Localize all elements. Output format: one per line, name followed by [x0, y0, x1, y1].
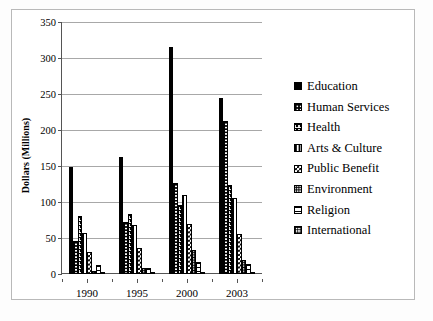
bar [151, 272, 156, 274]
legend-label: Public Benefit [307, 162, 379, 175]
bar-group [62, 22, 112, 274]
x-tick-mark [137, 279, 138, 283]
bar [101, 272, 106, 274]
plot-area: 050100150200250300350 [62, 22, 262, 274]
legend-item[interactable]: Religion [294, 200, 424, 221]
y-tick-label: 250 [40, 89, 56, 100]
bar-group [112, 22, 162, 274]
legend-label: Environment [307, 183, 372, 196]
x-tick-mark [187, 279, 188, 283]
y-tick-label: 100 [40, 197, 56, 208]
x-tick-label: 2000 [176, 287, 198, 299]
legend-label: Arts & Culture [307, 142, 382, 155]
legend-label: Health [307, 121, 340, 134]
x-tick-boundary [62, 279, 63, 282]
bar [201, 272, 206, 274]
legend-label: Religion [307, 204, 350, 217]
legend-item[interactable]: Human Services [294, 97, 424, 118]
legend-item[interactable]: Public Benefit [294, 158, 424, 179]
legend-item[interactable]: Health [294, 117, 424, 138]
x-tick-boundary [212, 279, 213, 282]
y-tick-label: 50 [46, 233, 57, 244]
legend-swatch-icon [294, 226, 302, 234]
x-tick-boundary [162, 279, 163, 282]
legend-swatch-icon [294, 165, 302, 173]
x-tick-mark [87, 279, 88, 283]
legend-item[interactable]: Arts & Culture [294, 138, 424, 159]
legend-swatch-icon [294, 123, 302, 131]
y-tick-label: 350 [40, 17, 56, 28]
x-axis-labels: 1990199520002003 [62, 279, 262, 299]
y-tick-mark [58, 274, 62, 275]
x-tick-boundary [112, 279, 113, 282]
legend-label: Human Services [307, 101, 389, 114]
x-tick-label: 2003 [226, 287, 248, 299]
bar-group [162, 22, 212, 274]
bar [251, 272, 256, 274]
y-tick-label: 150 [40, 161, 56, 172]
legend-swatch-icon [294, 206, 302, 214]
legend-item[interactable]: Environment [294, 179, 424, 200]
y-tick-label: 200 [40, 125, 56, 136]
bars-layer [62, 22, 262, 274]
legend-label: Education [307, 80, 358, 93]
legend-label: International [307, 224, 371, 237]
y-tick-label: 300 [40, 53, 56, 64]
y-tick-label: 0 [51, 269, 56, 280]
chart-legend: EducationHuman ServicesHealthArts & Cult… [294, 76, 424, 241]
x-tick-label: 1990 [76, 287, 98, 299]
x-tick-label: 1995 [126, 287, 148, 299]
x-tick-mark [237, 279, 238, 283]
legend-swatch-icon [294, 103, 302, 111]
legend-item[interactable]: Education [294, 76, 424, 97]
bar-group [212, 22, 262, 274]
legend-swatch-icon [294, 185, 302, 193]
y-axis-title: Dollars (Millions) [20, 86, 31, 226]
legend-swatch-icon [294, 82, 302, 90]
x-tick-boundary [262, 279, 263, 282]
legend-item[interactable]: International [294, 220, 424, 241]
bar-chart-figure: Dollars (Millions) 050100150200250300350… [0, 0, 433, 321]
legend-swatch-icon [294, 144, 302, 152]
